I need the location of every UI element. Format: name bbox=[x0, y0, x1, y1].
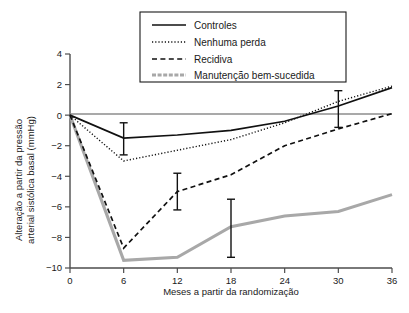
y-axis-title-line1: Alteração a partir da pressão bbox=[13, 119, 24, 241]
y-tick-label: 2 bbox=[57, 79, 62, 90]
y-tick-label: 0 bbox=[57, 110, 62, 121]
x-tick-label: 30 bbox=[333, 275, 344, 286]
chart-figure: Controles Nenhuma perda Recidiva Manuten… bbox=[0, 0, 409, 313]
chart-canvas: Controles Nenhuma perda Recidiva Manuten… bbox=[0, 0, 409, 313]
series-line-nenhuma-perda bbox=[70, 86, 392, 161]
y-tick-label: −10 bbox=[46, 262, 62, 273]
x-tick-label: 36 bbox=[387, 275, 398, 286]
y-tick-label: 4 bbox=[57, 48, 62, 59]
x-tick-label: 12 bbox=[172, 275, 183, 286]
chart-legend: Controles Nenhuma perda Recidiva Manuten… bbox=[140, 12, 346, 82]
x-tick-label: 0 bbox=[67, 275, 72, 286]
y-axis-ticks: −10−8−6−4−2024 bbox=[46, 48, 70, 273]
chart-plot-area bbox=[70, 86, 392, 260]
chart-axes: −10−8−6−4−2024 061218243036 bbox=[46, 48, 397, 286]
legend-label-controles: Controles bbox=[194, 20, 237, 31]
legend-label-manutencao: Manutenção bem-sucedida bbox=[194, 70, 315, 81]
legend-label-nenhuma-perda: Nenhuma perda bbox=[194, 37, 266, 48]
y-tick-label: −2 bbox=[51, 140, 62, 151]
x-tick-label: 24 bbox=[279, 275, 290, 286]
x-tick-label: 18 bbox=[226, 275, 237, 286]
series-line-controles bbox=[70, 88, 392, 138]
y-tick-label: −4 bbox=[51, 171, 62, 182]
x-axis-title: Meses a partir da randomização bbox=[163, 286, 299, 297]
x-tick-label: 6 bbox=[121, 275, 126, 286]
y-tick-label: −6 bbox=[51, 201, 62, 212]
y-axis-title-line2: arterial sistólica basal (mmHg) bbox=[25, 116, 36, 244]
x-axis-ticks: 061218243036 bbox=[67, 268, 397, 286]
y-tick-label: −8 bbox=[51, 232, 62, 243]
legend-label-recidiva: Recidiva bbox=[194, 54, 233, 65]
